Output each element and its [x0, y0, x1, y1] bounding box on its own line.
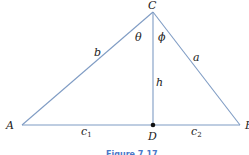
angle-theta-label: θ	[135, 31, 142, 44]
altitude-h-label: h	[156, 76, 163, 89]
figure-caption: Figure 7.17	[106, 150, 158, 155]
side-b-label: b	[94, 46, 101, 59]
vertex-c-label: C	[148, 0, 157, 12]
triangle-diagram: C A B D b a h θ ϕ c1 c2 Figure 7.17	[0, 0, 249, 155]
vertex-b-label: B	[244, 119, 249, 132]
side-a-label: a	[193, 51, 200, 64]
vertex-d-label: D	[147, 130, 157, 143]
side-a	[153, 12, 240, 125]
segment-c1-label: c1	[81, 125, 92, 139]
side-b	[22, 12, 153, 125]
foot-point-d	[151, 123, 156, 128]
vertex-a-label: A	[5, 119, 14, 132]
segment-c2-label: c2	[191, 125, 202, 139]
angle-phi-label: ϕ	[158, 31, 166, 44]
